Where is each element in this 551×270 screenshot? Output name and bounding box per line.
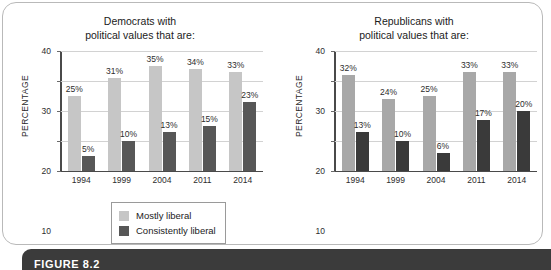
bar-group: 24%10%: [382, 51, 409, 171]
bar-group: 35%13%: [149, 51, 176, 171]
bar-value-label: 33%: [461, 60, 478, 70]
y-tick-label: 30: [42, 106, 51, 116]
y-tick-mark: 0: [331, 171, 335, 172]
y-tick-label: 30: [316, 106, 325, 116]
bar[interactable]: 13%: [356, 132, 369, 171]
legend-swatch-consistently-liberal: [119, 226, 129, 236]
x-axis-label: 1999: [375, 175, 415, 185]
plot-area-democrats: 01020304025%5%199431%10%199935%13%200434…: [61, 51, 263, 171]
chart-title-democrats: Democrats with political values that are…: [5, 14, 275, 42]
bar-group: 25%6%: [423, 51, 450, 171]
bar[interactable]: 31%: [108, 78, 121, 171]
bar-value-label: 23%: [241, 90, 258, 100]
chart-card: Democrats with political values that are…: [2, 2, 543, 245]
y-tick-label: 10: [316, 226, 325, 236]
y-tick-label: 40: [42, 46, 51, 56]
bar[interactable]: 33%: [229, 72, 242, 171]
y-tick-mark: 40: [57, 51, 61, 52]
y-tick-mark: 20: [331, 111, 335, 112]
x-axis-label: 2004: [416, 175, 456, 185]
y-tick-mark: 20: [57, 111, 61, 112]
y-tick-mark: 30: [331, 81, 335, 82]
y-axis-title-republicans: PERCENTAGE: [294, 61, 304, 151]
bar-value-label: 17%: [475, 108, 492, 118]
bar-value-label: 15%: [201, 114, 218, 124]
bar-value-label: 31%: [106, 66, 123, 76]
bar[interactable]: 33%: [503, 72, 516, 171]
figure-root: Democrats with political values that are…: [0, 0, 551, 270]
y-tick-label: 20: [316, 166, 325, 176]
bar[interactable]: 6%: [437, 153, 450, 171]
bar-value-label: 33%: [501, 60, 518, 70]
bar-group: 31%10%: [108, 51, 135, 171]
bar-value-label: 13%: [160, 120, 177, 130]
figure-caption-label: FIGURE 8.2: [34, 258, 100, 270]
bar-value-label: 32%: [340, 63, 357, 73]
y-axis-title-democrats: PERCENTAGE: [20, 61, 30, 151]
bar[interactable]: 10%: [396, 141, 409, 171]
chart-title-republicans: Republicans with political values that a…: [279, 14, 549, 42]
legend-item: Consistently liberal: [119, 223, 216, 238]
x-axis-label: 2014: [223, 175, 263, 185]
bar-value-label: 24%: [380, 87, 397, 97]
bar[interactable]: 23%: [243, 102, 256, 171]
y-tick-label: 20: [42, 166, 51, 176]
y-tick-label: 40: [316, 46, 325, 56]
bar-value-label: 35%: [146, 54, 163, 64]
bar-group: 33%23%: [229, 51, 256, 171]
bar[interactable]: 13%: [163, 132, 176, 171]
bar-value-label: 5%: [82, 144, 94, 154]
legend-swatch-mostly-liberal: [119, 211, 129, 221]
y-tick-mark: 10: [331, 141, 335, 142]
legend-democrats: Mostly liberal Consistently liberal: [111, 202, 226, 244]
bar-value-label: 34%: [187, 57, 204, 67]
bar[interactable]: 33%: [463, 72, 476, 171]
bar[interactable]: 25%: [423, 96, 436, 171]
bar[interactable]: 17%: [477, 120, 490, 171]
x-axis-label: 2004: [142, 175, 182, 185]
x-axis-label: 1994: [61, 175, 101, 185]
bar-group: 33%17%: [463, 51, 490, 171]
bar-value-label: 25%: [66, 84, 83, 94]
x-axis-label: 2011: [182, 175, 222, 185]
bar[interactable]: 35%: [149, 66, 162, 171]
bar[interactable]: 5%: [82, 156, 95, 171]
x-axis-label: 1999: [101, 175, 141, 185]
bar-value-label: 13%: [354, 120, 371, 130]
bar-group: 25%5%: [68, 51, 95, 171]
bar[interactable]: 15%: [203, 126, 216, 171]
chart-panel-republicans: Republicans with political values that a…: [279, 3, 549, 246]
bar[interactable]: 10%: [122, 141, 135, 171]
bar-value-label: 33%: [227, 60, 244, 70]
bar-value-label: 10%: [120, 129, 137, 139]
bar-value-label: 20%: [515, 99, 532, 109]
x-axis-label: 1994: [335, 175, 375, 185]
legend-label-mostly-liberal: Mostly liberal: [136, 210, 191, 221]
y-tick-mark: 30: [57, 81, 61, 82]
x-axis-label: 2011: [456, 175, 496, 185]
bar-value-label: 10%: [394, 129, 411, 139]
legend-item: Mostly liberal: [119, 208, 216, 223]
bar-group: 34%15%: [189, 51, 216, 171]
legend-label-consistently-liberal: Consistently liberal: [136, 225, 216, 236]
bar-group: 33%20%: [503, 51, 530, 171]
plot-area-republicans: 01020304032%13%199424%10%199925%6%200433…: [335, 51, 537, 171]
y-tick-mark: 10: [57, 141, 61, 142]
bar-value-label: 25%: [420, 84, 437, 94]
x-axis-label: 2014: [497, 175, 537, 185]
chart-panel-democrats: Democrats with political values that are…: [5, 3, 275, 246]
y-tick-mark: 40: [331, 51, 335, 52]
bar-group: 32%13%: [342, 51, 369, 171]
bar[interactable]: 25%: [68, 96, 81, 171]
figure-caption-bar: FIGURE 8.2: [22, 249, 551, 270]
y-tick-mark: 0: [57, 171, 61, 172]
bar[interactable]: 20%: [517, 111, 530, 171]
bar-value-label: 6%: [437, 141, 449, 151]
y-tick-label: 10: [42, 226, 51, 236]
